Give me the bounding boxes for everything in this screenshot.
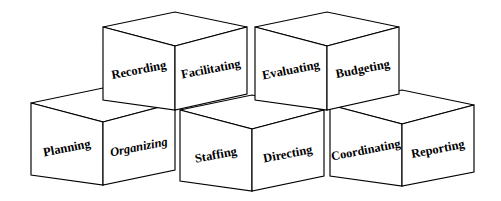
- cubes-diagram-canvas: Planning Organizing Staffing Directing C…: [0, 0, 501, 201]
- cube-bottom-middle: Staffing Directing: [180, 95, 324, 191]
- cubes-diagram: Planning Organizing Staffing Directing C…: [0, 0, 501, 201]
- cube-top-right: Evaluating Budgeting: [255, 12, 399, 110]
- cube-top-left: Recording Facilitating: [103, 12, 247, 110]
